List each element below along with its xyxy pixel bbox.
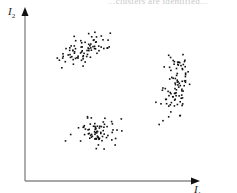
data-point <box>88 33 90 35</box>
data-point <box>67 54 69 56</box>
data-point <box>101 140 103 142</box>
data-point <box>97 137 99 139</box>
data-point <box>84 61 86 63</box>
data-point <box>174 82 176 84</box>
data-point <box>182 103 184 105</box>
data-point <box>90 135 92 137</box>
data-point <box>99 126 101 128</box>
data-point <box>184 66 186 68</box>
data-point <box>101 126 103 128</box>
scatter-plot <box>0 0 237 193</box>
data-point <box>57 57 59 59</box>
data-point <box>90 47 92 49</box>
data-point <box>99 127 101 129</box>
data-point <box>87 129 89 131</box>
data-point <box>162 89 164 91</box>
data-point <box>75 48 77 50</box>
data-point <box>75 40 77 42</box>
data-point <box>166 103 168 105</box>
data-point <box>100 46 102 48</box>
data-point <box>178 95 180 97</box>
data-point <box>90 43 92 45</box>
data-point <box>69 50 71 52</box>
data-point <box>84 134 86 136</box>
data-point <box>98 138 100 140</box>
data-point <box>177 81 179 83</box>
data-point <box>70 57 72 59</box>
data-point <box>65 61 67 63</box>
data-point <box>182 90 184 92</box>
data-point <box>178 64 180 66</box>
data-point <box>185 74 187 76</box>
data-point <box>88 44 90 46</box>
data-point <box>181 81 183 83</box>
data-point <box>106 126 108 128</box>
data-point <box>175 84 177 86</box>
data-point <box>95 48 97 50</box>
data-point <box>181 105 183 107</box>
data-point <box>107 39 109 41</box>
data-point <box>160 103 162 105</box>
data-point <box>74 51 76 53</box>
data-point <box>80 40 82 42</box>
data-point <box>103 133 105 135</box>
data-point <box>75 58 77 60</box>
data-point <box>158 124 160 126</box>
data-point <box>169 67 171 69</box>
data-point <box>100 133 102 135</box>
data-point <box>102 39 104 41</box>
data-point <box>174 88 176 90</box>
data-point <box>69 47 71 49</box>
data-point <box>62 57 64 59</box>
data-point <box>169 78 171 80</box>
data-point <box>179 101 181 103</box>
data-point <box>181 89 183 91</box>
data-point <box>70 134 72 136</box>
data-point <box>181 94 183 96</box>
data-point <box>182 69 184 71</box>
data-point <box>121 130 123 132</box>
data-point <box>96 132 98 134</box>
data-point <box>175 78 177 80</box>
data-point <box>81 60 83 62</box>
data-point <box>96 148 98 150</box>
data-point <box>91 49 93 51</box>
data-point <box>102 130 104 132</box>
data-point <box>84 42 86 44</box>
data-point <box>115 138 117 140</box>
data-point <box>111 132 113 134</box>
data-point <box>185 76 187 78</box>
data-point <box>179 83 181 85</box>
data-point <box>107 47 109 49</box>
data-point <box>182 97 184 99</box>
data-point <box>74 52 76 54</box>
data-point <box>169 92 171 94</box>
data-point <box>86 50 88 52</box>
data-point <box>87 54 89 56</box>
data-point <box>73 36 75 38</box>
data-point <box>112 123 114 125</box>
data-point <box>74 45 76 47</box>
data-point <box>189 84 191 86</box>
data-point <box>177 84 179 86</box>
data-point <box>176 68 178 70</box>
data-point <box>104 118 106 120</box>
data-point <box>91 136 93 138</box>
data-point <box>91 36 93 38</box>
data-point <box>185 72 187 74</box>
data-point <box>170 104 172 106</box>
data-point <box>110 32 112 34</box>
data-point <box>171 102 173 104</box>
data-point <box>187 71 189 73</box>
data-point <box>170 57 172 59</box>
data-point <box>183 85 185 87</box>
y-axis-label: I2 <box>8 5 15 20</box>
data-point <box>179 115 181 117</box>
data-point <box>62 56 64 58</box>
data-point <box>94 123 96 125</box>
data-point <box>72 50 74 52</box>
data-point <box>65 140 67 142</box>
x-axis-label-sub: 1 <box>198 190 202 193</box>
data-point <box>168 95 170 97</box>
data-point <box>81 42 83 44</box>
